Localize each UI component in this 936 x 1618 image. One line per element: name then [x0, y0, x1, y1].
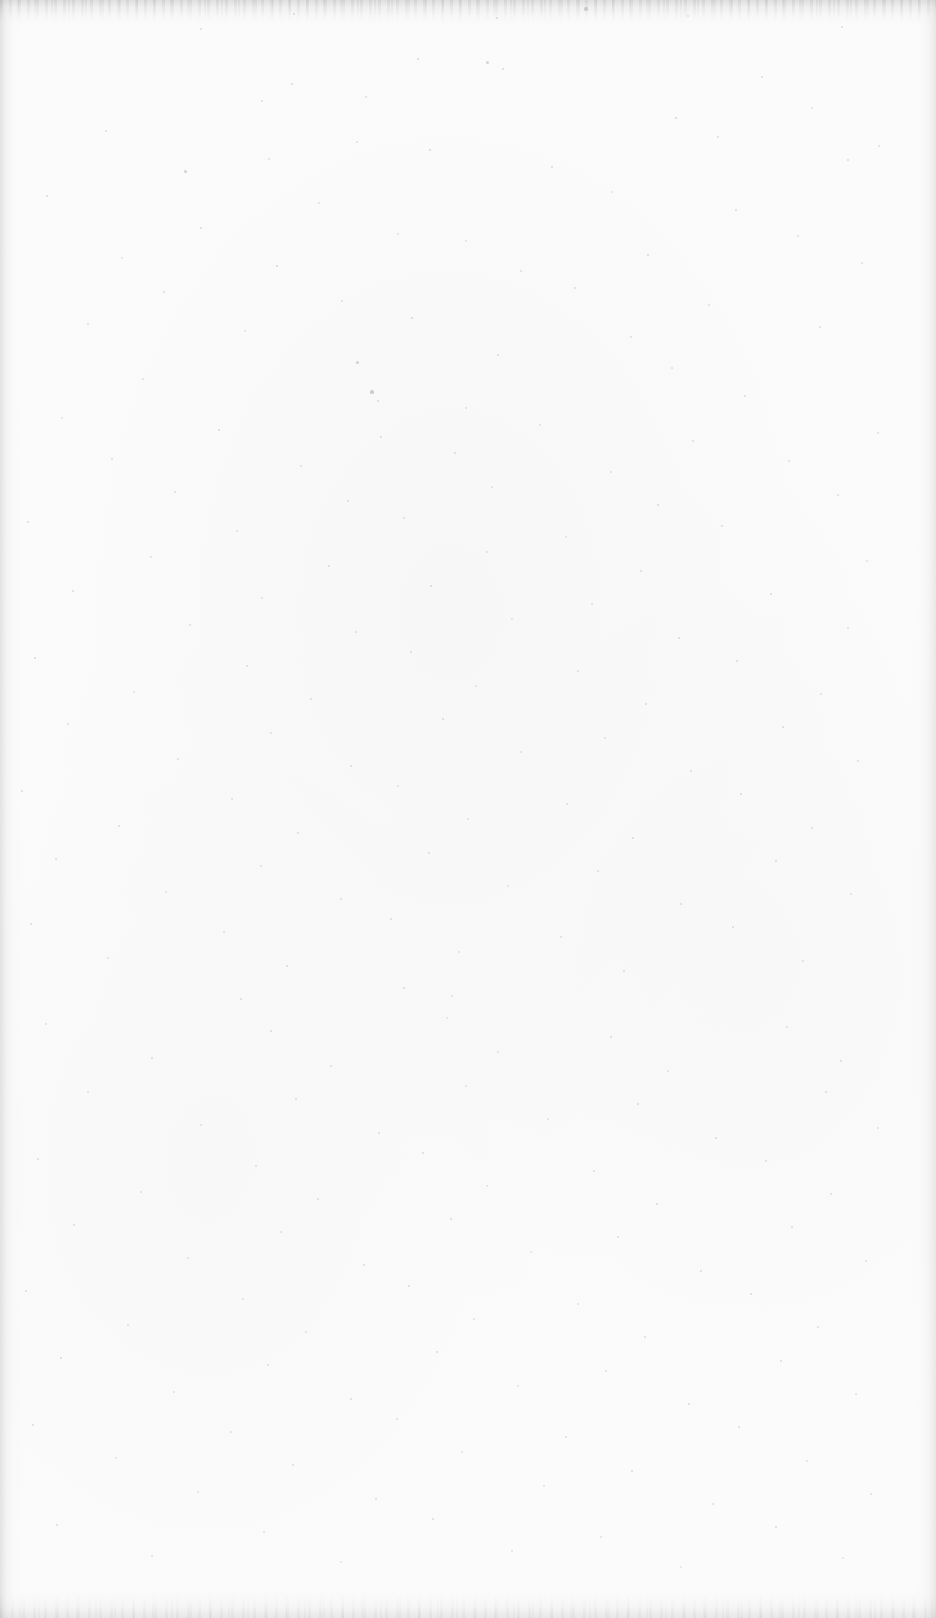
dust-speck — [678, 637, 681, 640]
dust-speck — [261, 597, 263, 599]
dust-speck — [750, 1293, 753, 1296]
dust-speck — [511, 1550, 513, 1552]
dust-speck — [631, 1470, 633, 1472]
dust-speck — [656, 1203, 658, 1205]
dust-speck — [350, 1398, 352, 1400]
dust-speck — [632, 837, 634, 839]
dust-speck — [230, 1431, 232, 1433]
dust-speck — [775, 1526, 778, 1529]
dust-speck — [802, 960, 804, 962]
dust-speck — [450, 1218, 453, 1221]
dust-speck — [574, 287, 577, 290]
dust-speck — [121, 257, 123, 259]
dust-speck — [870, 1493, 872, 1495]
dust-speck — [390, 918, 392, 920]
dust-speck — [840, 1060, 843, 1063]
dust-speck — [855, 1393, 857, 1395]
dust-speck — [260, 865, 262, 867]
dust-speck — [25, 1290, 27, 1292]
dust-speck — [847, 627, 849, 629]
dust-speck — [370, 390, 373, 393]
dust-speck — [700, 1270, 703, 1273]
dust-speck — [363, 1264, 365, 1266]
dust-speck — [736, 660, 739, 663]
dust-speck — [565, 536, 567, 538]
dust-speck — [378, 1132, 380, 1134]
dust-speck — [300, 465, 302, 467]
dust-speck — [825, 1091, 828, 1094]
dust-speck — [475, 685, 477, 687]
dust-speck — [142, 378, 144, 380]
dust-speck — [780, 1360, 782, 1362]
dust-speck — [150, 556, 152, 558]
dust-speck — [355, 631, 357, 633]
dust-speck — [189, 624, 191, 626]
dust-speck — [788, 460, 790, 462]
dust-speck — [356, 361, 359, 364]
dust-speck — [270, 732, 272, 734]
dust-speck — [610, 1036, 613, 1039]
dust-speck — [286, 965, 288, 967]
dust-speck — [397, 785, 399, 787]
dust-speck — [878, 145, 880, 147]
dust-speck — [310, 698, 312, 700]
dust-speck — [87, 323, 89, 325]
dust-speck — [461, 1451, 463, 1453]
dust-speck — [231, 798, 233, 800]
dust-speck — [600, 1536, 602, 1538]
dust-speck — [34, 657, 36, 659]
dust-speck — [377, 400, 380, 403]
dust-speck — [408, 1285, 410, 1287]
dust-speck — [647, 254, 649, 256]
dust-speck — [454, 452, 457, 455]
dust-speck — [411, 317, 414, 320]
dust-speck — [280, 1231, 282, 1233]
dust-speck — [680, 1566, 682, 1568]
dust-speck — [32, 1424, 34, 1426]
dust-speck — [717, 136, 719, 138]
dust-speck — [163, 291, 165, 293]
dust-speck — [637, 1103, 639, 1105]
dust-speck — [328, 565, 330, 567]
dust-speck — [611, 191, 613, 193]
dust-speck — [688, 1403, 691, 1406]
dust-speck — [340, 1561, 342, 1563]
dust-speck — [200, 227, 203, 230]
dust-speck — [165, 891, 167, 893]
dust-speck — [403, 517, 405, 519]
dust-speck — [577, 1303, 579, 1305]
dust-speck — [877, 432, 879, 434]
dust-speck — [877, 1127, 879, 1129]
dust-speck — [403, 987, 406, 990]
dust-speck — [667, 1070, 669, 1072]
dust-speck — [486, 551, 488, 553]
dust-speck — [644, 1336, 646, 1338]
dust-speck — [340, 898, 342, 900]
dust-speck — [67, 723, 69, 725]
dust-speck — [857, 760, 859, 762]
dust-speck — [841, 26, 843, 28]
dust-speck — [680, 903, 683, 906]
dust-speck — [105, 130, 107, 132]
dust-speck — [604, 737, 606, 739]
dust-speck — [133, 691, 135, 693]
dust-speck — [428, 852, 431, 855]
dust-speck — [292, 1464, 294, 1466]
dust-speck — [640, 570, 642, 572]
dust-speck — [496, 17, 498, 19]
dust-speck — [56, 1524, 58, 1526]
dust-speck — [451, 995, 453, 997]
dust-speck — [497, 1051, 499, 1053]
dust-speck — [200, 1124, 202, 1126]
scanner-speckle-layer — [0, 0, 936, 1618]
dust-speck — [246, 665, 248, 667]
dust-speck — [591, 603, 593, 605]
dust-speck — [347, 500, 349, 502]
dust-speck — [842, 1557, 844, 1559]
dust-speck — [291, 83, 294, 86]
dust-speck — [645, 703, 647, 705]
dust-speck — [539, 424, 541, 426]
dust-speck — [270, 1030, 272, 1032]
dust-speck — [244, 330, 246, 332]
dust-speck — [811, 827, 813, 829]
